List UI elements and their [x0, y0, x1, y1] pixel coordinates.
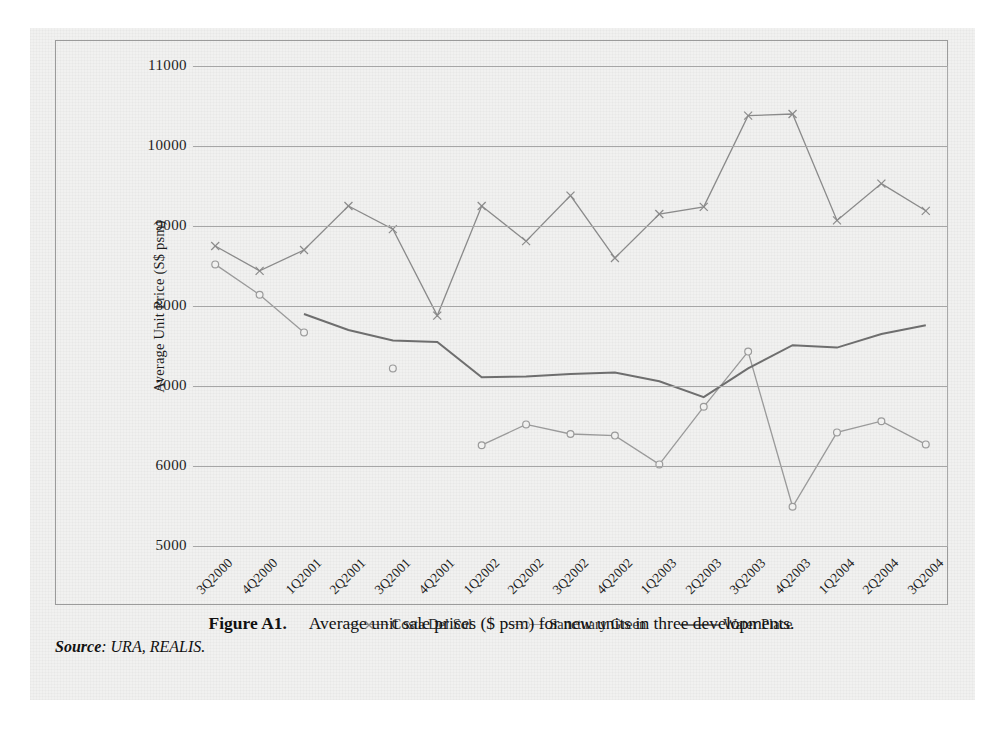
- scanned-page: Average Unit Price (S$ psm) 110001000090…: [30, 28, 975, 700]
- y-axis-tick-label: 7000: [117, 377, 187, 394]
- data-point-marker: [301, 329, 308, 336]
- data-point-marker: [256, 291, 263, 298]
- x-axis-tick-label: 3Q2004: [904, 555, 947, 598]
- data-point-marker: [300, 246, 308, 254]
- data-point-marker: [922, 207, 930, 215]
- x-axis-tick-label: 3Q2001: [371, 555, 414, 598]
- x-axis-tick-label: 4Q2001: [416, 555, 459, 598]
- data-point-marker: [433, 312, 441, 320]
- data-point-marker: [878, 418, 885, 425]
- x-axis-tick-label: 2Q2003: [682, 555, 725, 598]
- data-point-marker: [567, 431, 574, 438]
- x-axis-tick-label: 2Q2001: [327, 555, 370, 598]
- data-point-marker: [344, 202, 352, 210]
- data-point-marker: [389, 365, 396, 372]
- plot-area: [193, 66, 948, 546]
- y-axis-tick-label: 5000: [117, 537, 187, 554]
- series-line: [304, 314, 926, 397]
- source-label: Source: [55, 638, 101, 655]
- caption-figure-number: Figure A1.: [209, 613, 287, 633]
- caption-source-line: Source: URA, REALIS.: [55, 638, 948, 656]
- x-axis-tick-label: 2Q2004: [860, 555, 903, 598]
- figure-caption: Figure A1. Average unit sale prices ($ p…: [55, 613, 948, 656]
- x-axis-tick-label: 4Q2002: [593, 555, 636, 598]
- x-axis-tick-label: 4Q2000: [238, 555, 281, 598]
- gridline: [193, 306, 948, 307]
- series-costa-del-sol: [211, 110, 930, 320]
- x-axis-tick-label: 3Q2002: [549, 555, 592, 598]
- y-axis: Average Unit Price (S$ psm) 110001000090…: [115, 66, 187, 546]
- caption-description: Average unit sale prices ($ psm) for new…: [309, 613, 795, 633]
- data-point-marker: [789, 503, 796, 510]
- data-point-marker: [833, 216, 841, 224]
- series-water-place: [304, 314, 926, 397]
- x-axis-tick-label: 3Q2000: [194, 555, 237, 598]
- data-point-marker: [212, 261, 219, 268]
- data-point-marker: [523, 421, 530, 428]
- plot-right-border: [947, 66, 948, 546]
- x-axis-tick-label: 1Q2004: [815, 555, 858, 598]
- x-axis-tick-label: 1Q2002: [460, 555, 503, 598]
- data-point-marker: [211, 242, 219, 250]
- data-point-marker: [745, 348, 752, 355]
- x-axis-tick-label: 1Q2003: [638, 555, 681, 598]
- y-axis-tick-label: 11000: [117, 57, 187, 74]
- y-axis-tick-label: 10000: [117, 137, 187, 154]
- caption-main-line: Figure A1. Average unit sale prices ($ p…: [55, 613, 948, 635]
- data-point-marker: [567, 192, 575, 200]
- data-point-marker: [611, 254, 619, 262]
- data-point-marker: [700, 403, 707, 410]
- x-axis-tick-label: 1Q2001: [282, 555, 325, 598]
- gridline: [193, 226, 948, 227]
- series-line: [215, 114, 926, 316]
- x-axis-tick-label: 3Q2003: [727, 555, 770, 598]
- data-point-marker: [522, 237, 530, 245]
- data-point-marker: [478, 202, 486, 210]
- x-axis-tick-labels: 3Q20004Q20001Q20012Q20013Q20014Q20011Q20…: [193, 547, 948, 617]
- data-point-marker: [877, 180, 885, 188]
- gridline: [193, 466, 948, 467]
- x-axis-tick-label: 4Q2003: [771, 555, 814, 598]
- data-point-marker: [256, 267, 264, 275]
- data-point-marker: [478, 442, 485, 449]
- gridline: [193, 146, 948, 147]
- data-point-marker: [612, 432, 619, 439]
- y-axis-tick-label: 9000: [117, 217, 187, 234]
- y-axis-tick-label: 6000: [117, 457, 187, 474]
- source-text: : URA, REALIS.: [101, 638, 205, 655]
- gridline: [193, 386, 948, 387]
- x-axis-tick-label: 2Q2002: [504, 555, 547, 598]
- data-point-marker: [922, 441, 929, 448]
- y-axis-tick-label: 8000: [117, 297, 187, 314]
- data-point-marker: [834, 429, 841, 436]
- gridline: [193, 66, 948, 67]
